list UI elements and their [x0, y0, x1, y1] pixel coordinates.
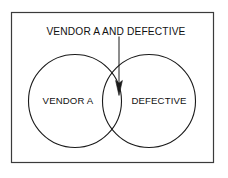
set-label-vendor-a: VENDOR A — [43, 95, 94, 106]
venn-diagram-figure: VENDOR A AND DEFECTIVE VENDOR A DEFECTIV… — [0, 0, 228, 178]
venn-diagram-canvas: VENDOR A AND DEFECTIVE VENDOR A DEFECTIV… — [0, 0, 228, 178]
set-label-defective: DEFECTIVE — [131, 95, 186, 106]
callout-label: VENDOR A AND DEFECTIVE — [46, 26, 185, 37]
